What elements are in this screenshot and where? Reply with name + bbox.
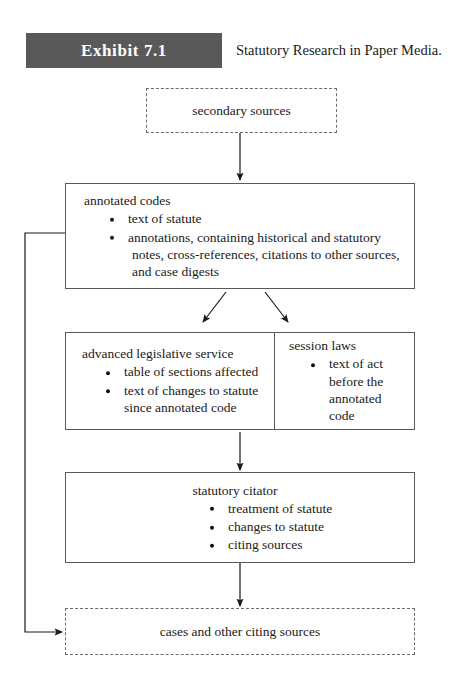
node-body: annotated codes text of statute annotati… [66,192,414,281]
node-title: secondary sources [157,102,326,119]
bullet-list: text of act before the annotated code [289,355,404,424]
list-item-text-continued: before the [329,373,404,390]
bullet-list: text of statute annotations, containing … [84,210,404,280]
bullet-icon [210,526,214,530]
bullet-icon [210,544,214,548]
bullet-icon [106,371,110,375]
bullet-list: table of sections affected text of chang… [82,364,264,417]
bullet-icon [110,236,114,240]
node-body: secondary sources [147,102,336,119]
node-title: annotated codes [84,192,404,209]
list-item-text-continued: since annotated code [124,399,264,416]
node-body: advanced legislative service table of se… [66,345,274,416]
exhibit-banner: Exhibit 7.1 [26,33,222,68]
node-session-laws: session laws text of act before the anno… [274,332,415,430]
list-item-text-continued: notes, cross-references, citations to ot… [128,246,404,263]
node-statutory-citator: statutory citator treatment of statute c… [65,472,415,563]
list-item: changes to statute [200,518,404,535]
list-item-text: text of act [329,356,383,371]
list-item-text: text of changes to statute [124,383,258,398]
list-item: treatment of statute [200,500,404,517]
node-title: session laws [289,337,404,354]
bullet-icon [110,217,114,221]
node-body: cases and other citing sources [66,623,414,640]
bullet-icon [106,390,110,394]
page-title: Statutory Research in Paper Media. [236,42,442,59]
bullet-icon [210,507,214,511]
list-item: text of act before the annotated code [289,355,404,424]
node-cases-and-other-citing-sources: cases and other citing sources [65,608,415,655]
list-item-text: changes to statute [228,519,324,534]
node-title: advanced legislative service [82,345,264,362]
connector-feedback-loop [25,233,65,632]
list-item-text: annotations, containing historical and s… [128,229,381,244]
connector-annotated-to-session [265,292,288,322]
node-annotated-codes: annotated codes text of statute annotati… [65,183,415,289]
list-item-text-continued: and case digests [128,263,404,280]
node-title: cases and other citing sources [76,623,404,640]
list-item: annotations, containing historical and s… [84,228,404,280]
list-item: table of sections affected [82,364,264,381]
list-item: text of statute [84,210,404,227]
node-title: statutory citator [66,481,404,498]
list-item-text-continued: annotated code [329,390,404,425]
list-item: text of changes to statute since annotat… [82,382,264,417]
list-item-text: citing sources [228,537,303,552]
list-item: citing sources [200,536,404,553]
bullet-list: treatment of statute changes to statute … [200,500,404,554]
list-item-text: treatment of statute [228,501,332,516]
node-body: session laws text of act before the anno… [275,337,414,425]
exhibit-page: Exhibit 7.1 Statutory Research in Paper … [0,0,460,689]
node-body: statutory citator treatment of statute c… [66,481,414,553]
exhibit-banner-label: Exhibit 7.1 [81,41,167,61]
node-advanced-legislative-service: advanced legislative service table of se… [65,332,275,430]
list-item-text: table of sections affected [124,365,258,380]
list-item-text: text of statute [128,211,201,226]
node-secondary-sources: secondary sources [146,88,337,133]
bullet-icon [311,363,315,367]
connector-annotated-to-als [203,292,226,322]
